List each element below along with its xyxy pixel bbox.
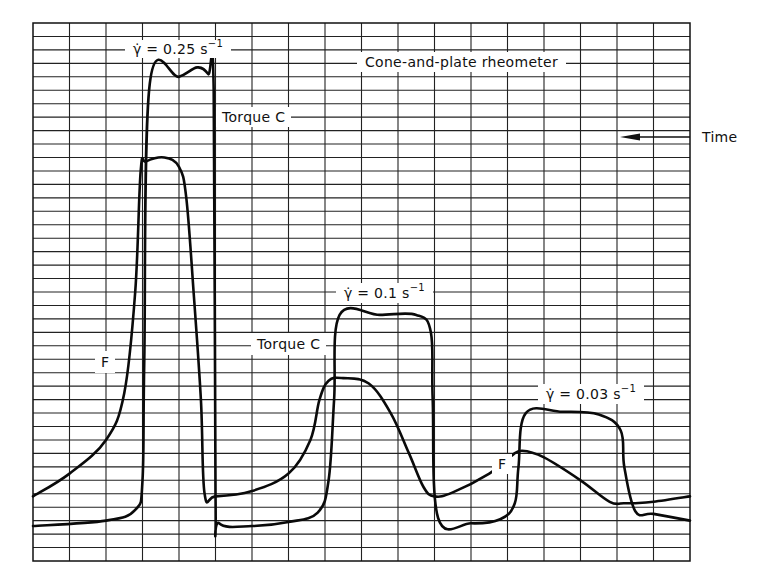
torque-label-1: Torque C	[216, 107, 291, 127]
torque-label-text: Torque C	[222, 109, 285, 125]
arrow-left-icon	[620, 134, 640, 141]
shear-rate-label-0.03: γ̇ = 0.03 s−1	[538, 384, 644, 404]
shear-rate-text: γ̇ = 0.03 s	[546, 386, 621, 402]
shear-rate-label-0.25: γ̇ = 0.25 s−1	[125, 40, 231, 58]
f-label-2: F	[492, 454, 512, 474]
exponent: −1	[621, 383, 636, 394]
chart-title-text: Cone-and-plate rheometer	[365, 54, 558, 70]
time-label-text: Time	[702, 129, 737, 145]
f-label-text: F	[101, 354, 109, 370]
shear-rate-text: γ̇ = 0.1 s	[344, 285, 410, 301]
time-arrow	[620, 134, 690, 141]
exponent: −1	[208, 38, 223, 49]
f-label-text: F	[498, 456, 506, 472]
shear-rate-text: γ̇ = 0.25 s	[133, 41, 208, 57]
chart-title: Cone-and-plate rheometer	[357, 52, 566, 72]
time-axis-label: Time	[698, 128, 741, 146]
torque-label-2: Torque C	[251, 333, 326, 355]
torque-label-text: Torque C	[257, 336, 320, 352]
exponent: −1	[410, 282, 425, 293]
shear-rate-label-0.1: γ̇ = 0.1 s−1	[336, 283, 433, 303]
f-label-1: F	[95, 351, 115, 373]
